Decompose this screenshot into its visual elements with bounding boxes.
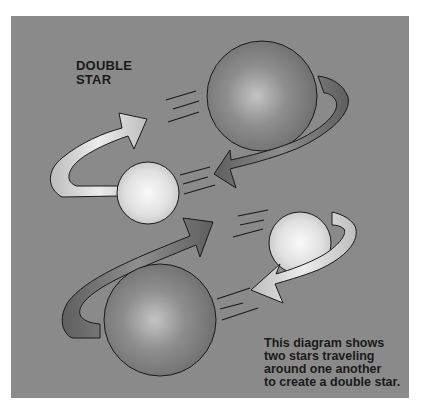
motion-lines-left-small — [180, 167, 215, 194]
diagram-title: DOUBLE STAR — [76, 59, 132, 87]
small-star-left — [117, 162, 179, 224]
large-star-top — [207, 41, 317, 151]
title-line-2: STAR — [76, 73, 132, 87]
caption-line-4: to create a double star. — [264, 376, 400, 389]
motion-lines-top — [166, 91, 199, 122]
motion-lines-bottom — [217, 288, 258, 320]
title-line-1: DOUBLE — [76, 59, 132, 73]
large-star-bottom — [104, 264, 216, 376]
motion-lines-right-small — [233, 210, 268, 237]
diagram-caption: This diagram shows two stars traveling a… — [264, 337, 400, 389]
